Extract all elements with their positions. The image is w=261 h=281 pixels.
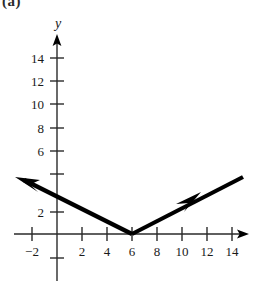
x-tick-label-8: 8 xyxy=(154,244,161,259)
x-tick-label-10: 10 xyxy=(176,244,189,259)
figure-panel: (a) 14 12 10 8 6 2 y xyxy=(0,0,261,281)
y-tick-label-10: 10 xyxy=(31,97,44,112)
y-tick-label-6: 6 xyxy=(38,144,45,159)
x-tick-label-12: 12 xyxy=(201,244,214,259)
coordinate-plot: 14 12 10 8 6 2 y −2 2 4 6 8 10 12 xyxy=(0,0,261,281)
y-axis-name-label: y xyxy=(53,16,62,31)
y-axis xyxy=(53,34,62,281)
x-tick-label-6: 6 xyxy=(129,244,136,259)
y-tick-label-14: 14 xyxy=(31,51,45,66)
y-tick-label-8: 8 xyxy=(38,121,45,136)
x-tick-label-neg2: −2 xyxy=(25,244,39,259)
x-tick-label-2: 2 xyxy=(79,244,86,259)
x-tick-label-4: 4 xyxy=(104,244,111,259)
right-ray-segment xyxy=(132,177,243,234)
y-tick-label-2: 2 xyxy=(38,205,45,220)
y-tick-label-12: 12 xyxy=(31,74,44,89)
absolute-value-graph xyxy=(15,177,243,234)
x-tick-label-14: 14 xyxy=(226,244,240,259)
